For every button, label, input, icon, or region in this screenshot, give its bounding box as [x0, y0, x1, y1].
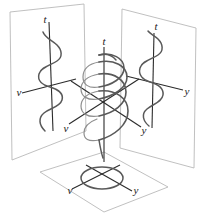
- left-plane-surface: [10, 4, 86, 160]
- center-t-label: t: [102, 35, 106, 47]
- figure-canvas: t v t y v y: [0, 0, 200, 224]
- center-v-label: v: [64, 122, 69, 134]
- bottom-plane-v-label: v: [68, 184, 73, 196]
- helix-projection-diagram: t v t y v y: [0, 0, 200, 224]
- left-plane: [10, 4, 86, 160]
- right-plane-y-label: y: [184, 85, 190, 97]
- bottom-plane-y-label: y: [133, 184, 139, 196]
- center-y-label: y: [141, 124, 147, 136]
- left-plane-v-label: v: [17, 86, 22, 98]
- helix-segment-front-1: [99, 54, 124, 87]
